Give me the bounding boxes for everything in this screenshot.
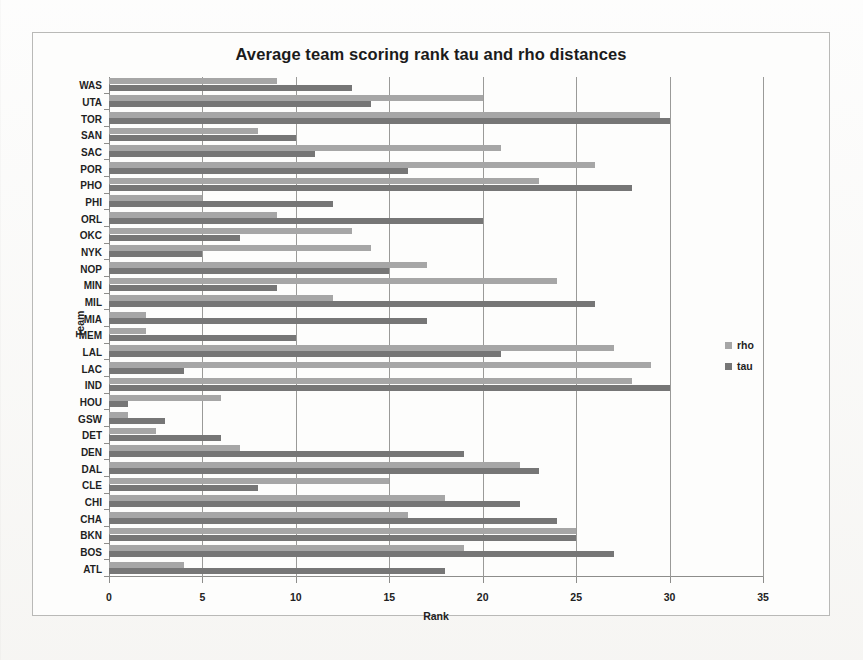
- y-tick-label-lal: LAL: [83, 346, 102, 357]
- x-tick-15: [389, 577, 390, 583]
- bar-row: LAC: [109, 360, 763, 377]
- y-tick-label-cle: CLE: [82, 480, 102, 491]
- y-tick-label-mem: MEM: [79, 330, 102, 341]
- bar-row: WAS: [109, 77, 763, 94]
- y-tick-label-pho: PHO: [80, 180, 102, 191]
- bar-tau-bkn: [109, 535, 576, 541]
- bar-tau-sac: [109, 151, 315, 157]
- bar-tau-cha: [109, 518, 557, 524]
- y-tick-label-san: SAN: [81, 130, 102, 141]
- bar-rho-mil: [109, 295, 333, 301]
- bar-rho-mia: [109, 312, 146, 318]
- bar-row: NYK: [109, 244, 763, 261]
- y-tick-label-min: MIN: [84, 280, 102, 291]
- y-tick-label-ind: IND: [85, 380, 102, 391]
- bar-tau-mia: [109, 318, 427, 324]
- bar-rho-bos: [109, 545, 464, 551]
- x-tick-30: [670, 577, 671, 583]
- bar-row: BKN: [109, 527, 763, 544]
- legend-item-rho[interactable]: rho: [725, 339, 795, 351]
- bar-row: PHO: [109, 177, 763, 194]
- x-tick-label-5: 5: [200, 591, 206, 603]
- x-tick-label-30: 30: [664, 591, 676, 603]
- bar-row: HOU: [109, 394, 763, 411]
- y-tick-label-atl: ATL: [83, 563, 102, 574]
- x-tick-25: [576, 577, 577, 583]
- bar-row: DEN: [109, 444, 763, 461]
- y-tick-label-bos: BOS: [80, 546, 102, 557]
- bar-rho-pho: [109, 178, 539, 184]
- bar-tau-por: [109, 168, 408, 174]
- bar-row: SAC: [109, 144, 763, 161]
- x-tick-label-20: 20: [477, 591, 489, 603]
- bar-rho-sac: [109, 145, 501, 151]
- x-tick-35: [763, 577, 764, 583]
- bar-rho-tor: [109, 112, 660, 118]
- bar-rho-cle: [109, 478, 389, 484]
- bar-rho-bkn: [109, 528, 576, 534]
- bar-tau-atl: [109, 568, 445, 574]
- bar-row: PHI: [109, 194, 763, 211]
- bar-tau-lac: [109, 368, 184, 374]
- y-tick-label-sac: SAC: [81, 146, 102, 157]
- bar-tau-bos: [109, 551, 614, 557]
- bar-tau-den: [109, 451, 464, 457]
- bar-row: GSW: [109, 410, 763, 427]
- x-tick-0: [109, 577, 110, 583]
- bar-tau-dal: [109, 468, 539, 474]
- bar-row: CLE: [109, 477, 763, 494]
- bar-rho-cha: [109, 512, 408, 518]
- y-tick-label-gsw: GSW: [78, 413, 102, 424]
- bar-rho-phi: [109, 195, 202, 201]
- y-tick-label-okc: OKC: [80, 230, 102, 241]
- y-tick-label-chi: CHI: [85, 496, 102, 507]
- bar-row: MIA: [109, 310, 763, 327]
- bar-row: CHI: [109, 494, 763, 511]
- y-tick-atl: [104, 576, 109, 577]
- bar-tau-lal: [109, 351, 501, 357]
- y-tick-label-por: POR: [80, 163, 102, 174]
- y-tick-label-nyk: NYK: [81, 246, 102, 257]
- bar-row: CHA: [109, 510, 763, 527]
- y-tick-label-den: DEN: [81, 446, 102, 457]
- x-tick-label-15: 15: [383, 591, 395, 603]
- bar-tau-tor: [109, 118, 670, 124]
- bar-tau-gsw: [109, 418, 165, 424]
- bar-tau-min: [109, 285, 277, 291]
- x-tick-label-10: 10: [290, 591, 302, 603]
- bar-row: IND: [109, 377, 763, 394]
- bar-row: NOP: [109, 260, 763, 277]
- y-tick-label-was: WAS: [79, 80, 102, 91]
- legend-swatch-rho: [725, 342, 732, 349]
- y-tick-label-nop: NOP: [80, 263, 102, 274]
- bar-rho-okc: [109, 228, 352, 234]
- bar-row: UTA: [109, 94, 763, 111]
- bar-tau-san: [109, 135, 296, 141]
- bar-tau-uta: [109, 101, 371, 107]
- x-tick-label-35: 35: [757, 591, 769, 603]
- plot-area: 05101520253035 WASUTATORSANSACPORPHOPHIO…: [109, 77, 763, 577]
- bar-tau-orl: [109, 218, 483, 224]
- bar-row: MIL: [109, 294, 763, 311]
- bar-tau-nop: [109, 268, 389, 274]
- bar-rho-was: [109, 78, 277, 84]
- y-tick-label-bkn: BKN: [80, 530, 102, 541]
- bar-row: TOR: [109, 110, 763, 127]
- x-tick-label-0: 0: [106, 591, 112, 603]
- bar-row: ORL: [109, 210, 763, 227]
- bar-row: DAL: [109, 460, 763, 477]
- x-tick-5: [202, 577, 203, 583]
- legend-label: tau: [737, 360, 753, 372]
- bar-rho-ind: [109, 378, 632, 384]
- bar-rho-nop: [109, 262, 427, 268]
- bar-rho-orl: [109, 212, 277, 218]
- bar-tau-phi: [109, 201, 333, 207]
- bar-tau-was: [109, 85, 352, 91]
- bar-row: ATL: [109, 560, 763, 577]
- y-tick-label-mil: MIL: [85, 296, 102, 307]
- y-tick-label-orl: ORL: [81, 213, 102, 224]
- legend-item-tau[interactable]: tau: [725, 360, 795, 372]
- bar-row: POR: [109, 160, 763, 177]
- bar-rho-san: [109, 128, 258, 134]
- bar-row: SAN: [109, 127, 763, 144]
